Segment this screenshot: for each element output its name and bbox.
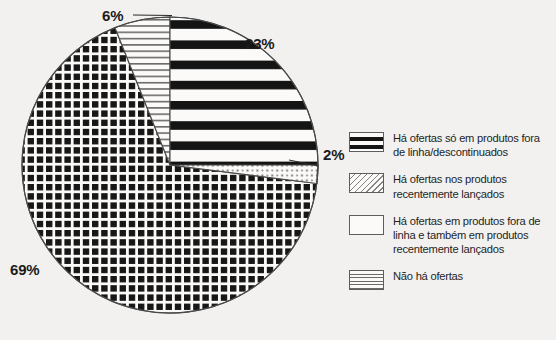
pie-label-2: 2% xyxy=(323,147,344,162)
legend-item-label: Há ofertas nos produtos recentemente lan… xyxy=(393,172,554,200)
legend-line-1: Há ofertas só em produtos fora xyxy=(393,132,540,144)
pie-label-6: 6% xyxy=(102,8,123,23)
legend-line-1: Não há ofertas xyxy=(393,270,463,282)
legend-line-3: recentemente lançados xyxy=(393,243,504,255)
checkered-grid-swatch-icon xyxy=(349,215,384,235)
horizontal-thick-bands-swatch-icon xyxy=(349,132,384,152)
legend-item-label: Há ofertas em produtos fora de linha e t… xyxy=(393,214,554,257)
legend-line-2: recentemente lançados xyxy=(393,188,504,200)
pie-chart-figure: 6% 23% 2% 69% Há ofertas só em produtos … xyxy=(0,0,556,340)
legend-line-1: Há ofertas em produtos fora de xyxy=(393,215,540,227)
pie-label-69: 69% xyxy=(10,262,39,277)
sparse-diagonal-dots-swatch-icon xyxy=(349,173,384,193)
leader-line-6 xyxy=(133,15,172,16)
legend-line-2: linha e também em produtos xyxy=(393,229,528,241)
horizontal-thin-lines-swatch-icon xyxy=(349,270,384,290)
legend-item-nao-ha-ofertas[interactable]: Não há ofertas xyxy=(349,269,554,290)
legend-line-1: Há ofertas nos produtos xyxy=(393,173,507,185)
legend-item-ofertas-recentemente-lancados[interactable]: Há ofertas nos produtos recentemente lan… xyxy=(349,172,554,200)
legend-item-label: Há ofertas só em produtos fora de linha/… xyxy=(393,131,554,159)
pie-slice-23[interactable] xyxy=(170,17,318,184)
legend-item-ofertas-fora-de-linha[interactable]: Há ofertas só em produtos fora de linha/… xyxy=(349,131,554,159)
legend-item-ofertas-ambos[interactable]: Há ofertas em produtos fora de linha e t… xyxy=(349,214,554,257)
pie-label-23: 23% xyxy=(245,36,274,51)
legend-item-label: Não há ofertas xyxy=(393,269,554,283)
chart-legend: Há ofertas só em produtos fora de linha/… xyxy=(349,131,554,303)
legend-line-2: de linha/descontinuados xyxy=(393,146,508,158)
